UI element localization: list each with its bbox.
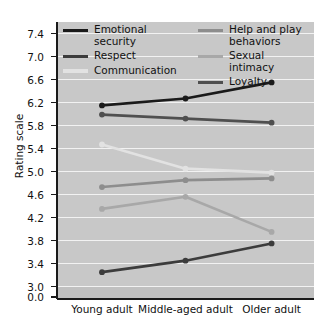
y-tick-mark xyxy=(51,148,56,150)
y-tick-mark xyxy=(51,171,56,173)
y-tick-label: 6.6 xyxy=(0,75,44,85)
y-tick-mark xyxy=(51,286,56,288)
legend-entry[interactable]: Sexual intimacy xyxy=(198,50,311,73)
legend-entry[interactable]: Communication xyxy=(63,65,188,77)
series-communication xyxy=(99,142,274,176)
data-point xyxy=(99,142,105,148)
series-line xyxy=(102,243,272,272)
y-axis-line xyxy=(56,22,58,299)
series-line xyxy=(102,197,272,232)
y-tick-label: 7.4 xyxy=(0,29,44,39)
line-chart: 0.03.03.43.84.24.65.05.45.86.26.67.07.4 … xyxy=(0,0,332,331)
data-point xyxy=(99,269,105,275)
y-tick-label: 0.0 xyxy=(0,292,44,302)
y-tick-mark xyxy=(51,56,56,58)
y-tick-label: 3.8 xyxy=(0,236,44,246)
data-point xyxy=(183,96,189,102)
legend-entry[interactable]: Loyalty xyxy=(198,76,311,88)
legend-column-right: Help and play behaviorsSexual intimacyLo… xyxy=(198,24,311,88)
y-tick-mark xyxy=(51,240,56,242)
data-point xyxy=(269,170,275,176)
data-point xyxy=(99,102,105,108)
legend-label: Communication xyxy=(94,65,177,77)
legend-label: Emotional security xyxy=(94,24,188,47)
y-tick-label: 4.6 xyxy=(0,190,44,200)
legend-entry[interactable]: Emotional security xyxy=(63,24,188,47)
data-point xyxy=(183,194,189,200)
y-tick-mark xyxy=(51,79,56,81)
y-tick-mark xyxy=(51,125,56,127)
data-point xyxy=(269,241,275,247)
data-point xyxy=(183,177,189,183)
y-tick-mark xyxy=(51,33,56,35)
legend-label: Help and play behaviors xyxy=(229,24,311,47)
y-tick-label: 3.0 xyxy=(0,282,44,292)
legend-entry[interactable]: Respect xyxy=(63,50,188,62)
y-tick-label: 7.0 xyxy=(0,52,44,62)
y-tick-mark xyxy=(51,194,56,196)
x-axis-line xyxy=(57,298,314,300)
y-tick-label: 4.2 xyxy=(0,213,44,223)
y-tick-mark xyxy=(51,296,56,298)
data-point xyxy=(269,229,275,235)
series-loyalty xyxy=(99,112,274,126)
legend-label: Loyalty xyxy=(229,76,267,88)
y-tick-label: 3.4 xyxy=(0,259,44,269)
legend-swatch-icon xyxy=(198,55,223,59)
data-point xyxy=(183,116,189,122)
series-help-and-play-behaviors xyxy=(99,176,274,190)
legend-label: Respect xyxy=(94,50,136,62)
data-point xyxy=(183,258,189,264)
y-tick-mark xyxy=(51,217,56,219)
data-point xyxy=(269,120,275,126)
y-axis-title: Rating scale xyxy=(13,101,25,191)
legend-swatch-icon xyxy=(63,29,88,33)
y-tick-mark xyxy=(51,263,56,265)
data-point xyxy=(269,176,275,182)
legend-swatch-icon xyxy=(198,81,223,85)
legend-swatch-icon xyxy=(198,29,223,33)
x-tick-label: Older adult xyxy=(212,303,332,315)
legend-label: Sexual intimacy xyxy=(229,50,311,73)
legend-entry[interactable]: Help and play behaviors xyxy=(198,24,311,47)
y-tick-mark xyxy=(51,102,56,104)
series-respect xyxy=(99,241,274,276)
chart-legend: Emotional securityRespectCommunication H… xyxy=(63,24,311,88)
data-point xyxy=(183,166,189,172)
legend-column-left: Emotional securityRespectCommunication xyxy=(63,24,188,88)
data-point xyxy=(99,112,105,118)
series-sexual-intimacy xyxy=(99,194,274,235)
data-point xyxy=(99,206,105,212)
legend-swatch-icon xyxy=(63,55,88,59)
data-point xyxy=(99,184,105,190)
legend-swatch-icon xyxy=(63,69,88,73)
